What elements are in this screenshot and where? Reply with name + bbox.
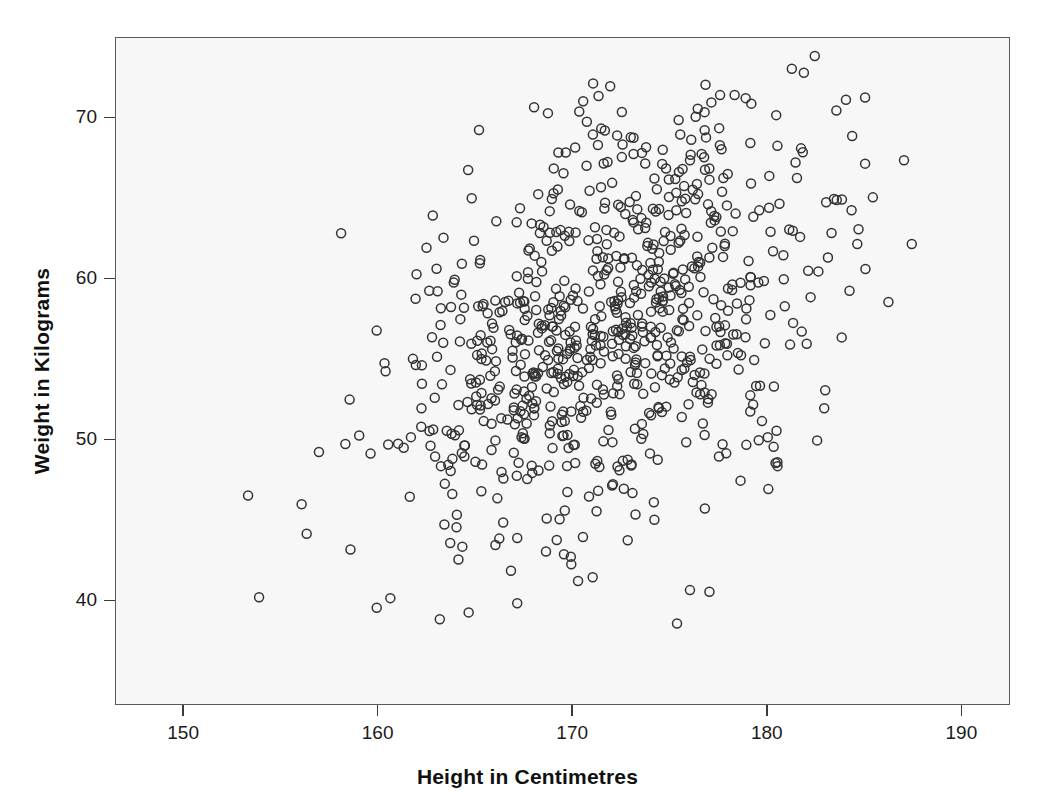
data-point — [680, 182, 689, 191]
data-point — [584, 287, 593, 296]
x-tick-label: 160 — [362, 722, 394, 744]
data-point — [514, 458, 523, 467]
data-point — [884, 297, 893, 306]
data-point — [545, 461, 554, 470]
data-point — [593, 140, 602, 149]
data-point — [742, 315, 751, 324]
data-point — [716, 227, 725, 236]
data-point — [773, 141, 782, 150]
data-point — [534, 190, 543, 199]
data-point — [724, 306, 733, 315]
data-point — [686, 150, 695, 159]
data-point — [723, 351, 732, 360]
data-point — [618, 140, 627, 149]
data-point — [487, 446, 496, 455]
data-point — [608, 178, 617, 187]
data-point — [594, 486, 603, 495]
data-point — [772, 111, 781, 120]
data-point — [747, 179, 756, 188]
data-point — [574, 577, 583, 586]
x-tick-label: 170 — [556, 722, 588, 744]
data-point — [522, 419, 531, 428]
data-point — [647, 369, 656, 378]
data-point — [633, 311, 642, 320]
data-point — [406, 433, 415, 442]
data-point — [411, 294, 420, 303]
data-point — [244, 491, 253, 500]
data-point — [653, 455, 662, 464]
data-point — [495, 382, 504, 391]
x-tick-label: 190 — [945, 722, 977, 744]
data-point — [722, 201, 731, 210]
data-point — [538, 363, 547, 372]
data-point — [464, 608, 473, 617]
data-point — [454, 401, 463, 410]
data-point — [602, 240, 611, 249]
data-point — [542, 384, 551, 393]
data-point — [426, 441, 435, 450]
data-point — [467, 194, 476, 203]
data-point — [684, 282, 693, 291]
data-point — [432, 264, 441, 273]
data-point — [573, 354, 582, 363]
data-point — [566, 200, 575, 209]
data-point — [470, 236, 479, 245]
data-point — [372, 603, 381, 612]
data-point — [823, 253, 832, 262]
y-tick-mark — [104, 439, 115, 441]
data-point — [493, 494, 502, 503]
data-point — [682, 438, 691, 447]
data-point — [475, 125, 484, 134]
data-point — [588, 266, 597, 275]
data-point — [754, 436, 763, 445]
data-point — [613, 131, 622, 140]
data-point — [677, 413, 686, 422]
data-point — [716, 91, 725, 100]
x-tick-label: 150 — [167, 722, 199, 744]
data-point — [552, 536, 561, 545]
data-point — [487, 419, 496, 428]
data-point — [848, 132, 857, 141]
data-point — [678, 265, 687, 274]
data-point — [593, 457, 602, 466]
data-point — [705, 354, 714, 363]
data-point — [595, 302, 604, 311]
data-point — [405, 492, 414, 501]
data-point — [797, 327, 806, 336]
data-point — [588, 130, 597, 139]
data-point — [579, 97, 588, 106]
data-point — [655, 249, 664, 258]
y-axis-title: Weight in Kilograms — [22, 37, 62, 705]
data-point — [509, 448, 518, 457]
data-point — [386, 594, 395, 603]
data-point — [719, 252, 728, 261]
data-point — [548, 444, 557, 453]
data-point — [705, 253, 714, 262]
data-point — [523, 274, 532, 283]
data-point — [616, 263, 625, 272]
data-point — [512, 218, 521, 227]
data-point — [455, 337, 464, 346]
data-point — [789, 318, 798, 327]
data-point — [665, 306, 674, 315]
data-point — [732, 299, 741, 308]
data-point — [513, 534, 522, 543]
data-point — [457, 259, 466, 268]
data-point — [422, 243, 431, 252]
data-point — [491, 296, 500, 305]
data-point — [779, 251, 788, 260]
data-point — [684, 400, 693, 409]
data-point — [700, 431, 709, 440]
data-point — [764, 485, 773, 494]
data-point — [705, 175, 714, 184]
data-point — [772, 426, 781, 435]
data-point — [585, 186, 594, 195]
data-point — [780, 302, 789, 311]
data-point — [337, 229, 346, 238]
data-point — [631, 510, 640, 519]
data-point — [709, 295, 718, 304]
data-point — [372, 326, 381, 335]
data-point — [589, 79, 598, 88]
data-point — [516, 360, 525, 369]
data-point — [464, 165, 473, 174]
